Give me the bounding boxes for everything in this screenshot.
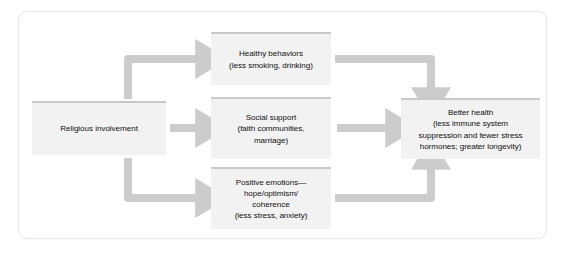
- node-social-support-label: Social support (faith communities, marri…: [233, 112, 310, 145]
- node-better-health-label: Better health (less immune system suppre…: [414, 107, 528, 152]
- node-healthy-behaviors-label: Healthy behaviors (less smoking, drinkin…: [224, 48, 318, 70]
- node-positive-emotions: Positive emotions— hope/optimism/ cohere…: [211, 167, 331, 229]
- node-better-health: Better health (less immune system suppre…: [401, 98, 540, 159]
- diagram-canvas: Religious involvement Healthy behaviors …: [0, 0, 566, 256]
- node-religious-involvement-label: Religious involvement: [55, 123, 143, 134]
- node-social-support: Social support (faith communities, marri…: [211, 97, 331, 159]
- node-religious-involvement: Religious involvement: [32, 101, 166, 155]
- arrow-positive-to-better: [335, 169, 431, 198]
- arrow-healthy-to-better: [335, 59, 431, 88]
- node-positive-emotions-label: Positive emotions— hope/optimism/ cohere…: [230, 177, 313, 222]
- node-healthy-behaviors: Healthy behaviors (less smoking, drinkin…: [211, 32, 331, 85]
- arrow-religious-to-healthy: [128, 59, 196, 99]
- arrow-religious-to-positive: [128, 158, 196, 198]
